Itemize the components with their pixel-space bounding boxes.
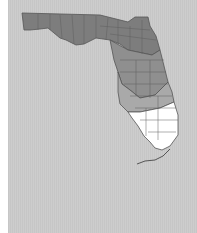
florida-keys xyxy=(137,149,170,164)
florida-map xyxy=(0,0,197,233)
region-north xyxy=(22,13,160,55)
